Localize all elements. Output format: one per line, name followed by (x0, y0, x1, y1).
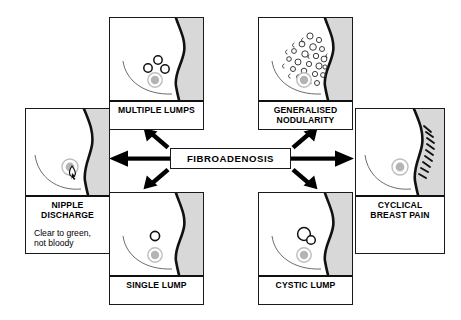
caption-multiple-lumps: MULTIPLE LUMPS (110, 102, 203, 118)
arrow-to-generalised-nodularity (292, 128, 318, 149)
panel-cyclical-breast-pain[interactable]: CYCLICAL BREAST PAIN (355, 108, 445, 254)
center-node-fibroadenosis[interactable]: FIBROADENOSIS (170, 148, 291, 169)
caption-line-2: NODULARITY (260, 116, 351, 126)
caption-generalised-nodularity: GENERALISED NODULARITY (259, 102, 352, 127)
caption-cyclical-breast-pain: CYCLICAL BREAST PAIN (356, 197, 444, 222)
arrow-to-cyclical-breast-pain (288, 151, 354, 167)
caption-cystic-lump: CYSTIC LUMP (259, 277, 352, 293)
caption-nipple-discharge: NIPPLE DISCHARGE (26, 197, 109, 222)
note-line-2: not bloody (34, 238, 109, 248)
illustration-cyclical-breast-pain (356, 109, 444, 195)
caption-single-lump: SINGLE LUMP (110, 277, 203, 293)
illustration-generalised-nodularity (259, 18, 352, 100)
center-node-label: FIBROADENOSIS (187, 153, 274, 164)
panel-cystic-lump[interactable]: CYSTIC LUMP (258, 192, 353, 305)
arrow-to-single-lump (144, 168, 170, 189)
panel-multiple-lumps[interactable]: MULTIPLE LUMPS (109, 17, 204, 130)
panel-single-lump[interactable]: SINGLE LUMP (109, 192, 204, 305)
caption-nipple-discharge-note: Clear to green, not bloody (26, 223, 109, 248)
illustration-multiple-lumps (110, 18, 203, 100)
illustration-cystic-lump (259, 193, 352, 275)
note-line-1: Clear to green, (34, 228, 109, 238)
caption-line-2: BREAST PAIN (357, 211, 443, 221)
diagram-canvas: MULTIPLE LUMPS (0, 0, 461, 320)
panel-nipple-discharge[interactable]: NIPPLE DISCHARGE Clear to green, not blo… (25, 108, 110, 254)
arrow-to-multiple-lumps (144, 128, 170, 149)
illustration-nipple-discharge (26, 109, 109, 195)
arrow-to-cystic-lump (292, 168, 318, 189)
arrow-to-nipple-discharge (109, 151, 173, 167)
panel-generalised-nodularity[interactable]: GENERALISED NODULARITY (258, 17, 353, 130)
illustration-single-lump (110, 193, 203, 275)
caption-line-2: DISCHARGE (27, 211, 108, 221)
